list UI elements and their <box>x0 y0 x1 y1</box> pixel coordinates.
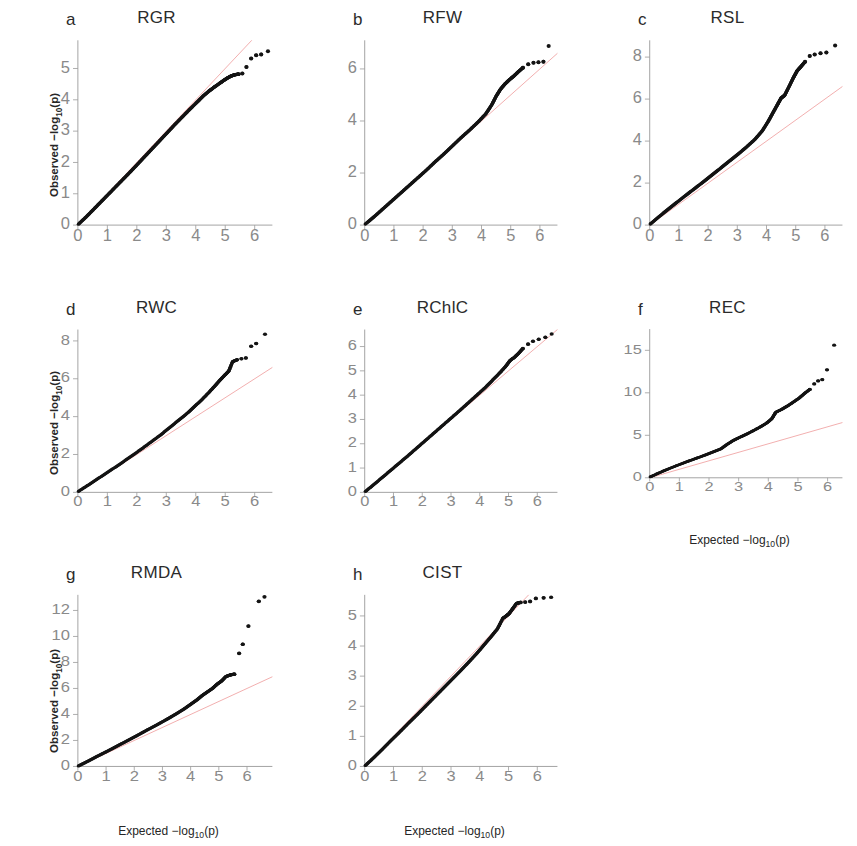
panel-header: gRMDA <box>0 561 287 589</box>
x-tick-label: 3 <box>448 226 457 244</box>
qq-plot-svg: 012345602468 <box>630 34 849 244</box>
plot-area: 01234560123456 <box>345 324 564 509</box>
panel-title: RChlC <box>287 298 572 318</box>
data-point-tail <box>528 600 532 604</box>
y-tick-label: 0 <box>348 757 358 773</box>
panel-title: CIST <box>287 563 572 583</box>
y-tick-label: 1 <box>348 459 357 475</box>
x-tick-label: 6 <box>250 226 259 244</box>
panel-letter: a <box>66 10 75 30</box>
x-axis-label-suffix: (p) <box>204 824 219 838</box>
qq-plot-svg: 0123456012345 <box>58 34 279 244</box>
x-tick-label: 0 <box>360 226 369 244</box>
plot-canvas: 01234560123456 <box>345 324 564 509</box>
x-axis-label-prefix: Expected −log <box>404 824 480 838</box>
x-tick-label: 4 <box>191 494 201 509</box>
data-point-tail <box>257 599 261 603</box>
y-tick-label: 6 <box>348 58 357 76</box>
x-tick-label: 1 <box>675 479 684 493</box>
y-tick-label: 5 <box>348 362 357 378</box>
panel-header: cRSL <box>572 6 857 34</box>
panel-title: RSL <box>572 8 857 28</box>
data-point-tail <box>263 333 267 337</box>
data-point-tail <box>549 595 553 599</box>
x-axis-label: Expected −log10(p) <box>630 533 849 549</box>
y-tick-label: 12 <box>51 601 69 617</box>
x-tick-label: 5 <box>506 226 515 244</box>
x-tick-label: 6 <box>242 768 251 784</box>
data-points <box>77 595 267 768</box>
data-point-tail <box>550 332 554 336</box>
panel-b-rfw: bRFW01234560246 <box>287 0 572 290</box>
x-tick-label: 1 <box>674 226 683 244</box>
x-tick-label: 5 <box>793 479 802 493</box>
plot-area: 0123456012345 <box>58 34 279 244</box>
x-tick-label: 2 <box>418 494 427 510</box>
data-point-tail <box>541 60 545 64</box>
x-tick-label: 2 <box>132 494 141 509</box>
x-axis-label-subscript: 10 <box>481 830 491 840</box>
x-tick-label: 3 <box>162 494 171 509</box>
plot-area: 01234560246 <box>345 34 564 244</box>
plot-area: 012345602468 <box>630 34 849 244</box>
x-tick-label: 2 <box>704 479 713 493</box>
y-tick-label: 4 <box>61 89 70 107</box>
x-tick-label: 0 <box>73 494 82 509</box>
x-tick-label: 2 <box>418 768 427 784</box>
reference-line <box>650 87 843 226</box>
x-tick-label: 1 <box>103 494 112 509</box>
panel-e-rchlc: eRChlC01234560123456 <box>287 290 572 555</box>
y-tick-label: 4 <box>348 111 357 129</box>
panel-letter: d <box>66 300 75 320</box>
data-point-tail <box>547 44 551 48</box>
x-tick-label: 6 <box>820 226 829 244</box>
panel-f-rec: fRECExpected −log10(p)0123456051015 <box>572 290 857 555</box>
x-tick-label: 6 <box>535 226 544 244</box>
data-point-tail <box>833 44 837 48</box>
x-tick-label: 5 <box>791 226 800 244</box>
panel-title: RWC <box>0 298 287 318</box>
data-point-tail <box>254 53 258 57</box>
data-point-tail <box>249 344 253 348</box>
x-tick-label: 0 <box>360 768 370 784</box>
y-tick-label: 4 <box>633 131 642 149</box>
x-tick-label: 0 <box>645 479 654 493</box>
x-axis-label-suffix: (p) <box>775 533 790 547</box>
data-point-tail <box>262 595 266 599</box>
qq-plot-svg: 012345602468 <box>58 324 279 509</box>
x-tick-label: 5 <box>504 768 513 784</box>
data-point-tail <box>523 600 527 604</box>
data-point-tail <box>521 347 525 351</box>
x-tick-label: 1 <box>389 494 398 510</box>
y-tick-label: 0 <box>633 470 642 484</box>
x-tick-label: 4 <box>475 494 484 510</box>
data-point-tail <box>519 601 523 605</box>
data-point-tail <box>244 356 248 360</box>
x-tick-label: 3 <box>733 226 742 244</box>
y-tick-label: 2 <box>61 445 70 460</box>
panel-letter: g <box>66 565 75 585</box>
y-tick-label: 0 <box>61 215 70 233</box>
data-point-tail <box>820 378 824 381</box>
x-tick-label: 5 <box>221 226 230 244</box>
panel-c-rsl: cRSL012345602468 <box>572 0 857 290</box>
data-point-tail <box>542 596 546 600</box>
data-points <box>649 344 837 479</box>
data-point-tail <box>534 597 538 601</box>
data-point-tail <box>531 339 535 343</box>
x-tick-label: 0 <box>73 768 83 784</box>
data-point-tail <box>254 342 258 346</box>
x-axis-label-suffix: (p) <box>490 824 505 838</box>
y-tick-label: 10 <box>51 627 70 643</box>
x-tick-label: 1 <box>101 768 110 784</box>
y-tick-label: 10 <box>624 385 642 399</box>
y-tick-label: 4 <box>61 408 71 423</box>
data-point-tail <box>818 51 822 55</box>
plot-canvas: 0123456012345 <box>58 34 279 244</box>
panel-letter: b <box>353 10 362 30</box>
x-tick-label: 6 <box>823 479 832 493</box>
panel-title: RGR <box>0 8 287 28</box>
x-axis-label-prefix: Expected −log <box>118 824 194 838</box>
y-tick-label: 5 <box>61 58 70 76</box>
x-tick-label: 6 <box>533 494 542 510</box>
